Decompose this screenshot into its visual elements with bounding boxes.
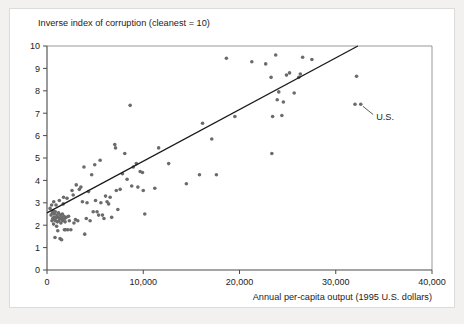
data-point <box>101 213 105 217</box>
data-point <box>66 228 70 232</box>
x-tick-label: 0 <box>44 277 49 287</box>
data-point <box>285 73 289 77</box>
data-point <box>62 195 66 199</box>
data-point <box>90 173 94 177</box>
data-point <box>71 193 75 197</box>
data-point <box>277 90 281 94</box>
data-point <box>55 225 59 229</box>
data-point <box>128 104 132 108</box>
y-tick-label: 2 <box>35 221 40 231</box>
data-point <box>130 184 134 188</box>
data-point <box>79 185 83 189</box>
data-point <box>102 217 106 221</box>
data-point <box>67 214 71 218</box>
y-tick-label: 6 <box>35 131 40 141</box>
data-point <box>94 199 98 203</box>
data-point <box>225 57 229 61</box>
data-point <box>84 217 88 221</box>
y-tick-label: 5 <box>35 153 40 163</box>
data-point <box>301 55 305 59</box>
us-annotation: U.S. <box>363 106 394 121</box>
data-point <box>93 163 97 167</box>
data-point <box>310 58 314 62</box>
data-point <box>110 216 114 220</box>
data-point <box>269 76 273 80</box>
annotation-leader-line <box>363 106 373 114</box>
data-point <box>143 212 147 216</box>
data-point <box>54 203 58 207</box>
x-tick-label: 30,000 <box>322 277 350 287</box>
data-point <box>275 98 279 102</box>
y-axis-title: Inverse index of corruption (cleanest = … <box>38 18 210 28</box>
data-point <box>53 210 57 214</box>
data-point <box>185 182 189 186</box>
data-point <box>97 213 101 217</box>
data-point <box>53 236 57 240</box>
data-point <box>215 173 219 177</box>
data-point <box>264 62 268 66</box>
data-point <box>65 197 69 201</box>
data-point <box>274 53 278 57</box>
data-point <box>58 199 62 203</box>
data-point <box>167 162 171 166</box>
data-point <box>68 219 72 223</box>
x-axis-title: Annual per-capita output (1995 U.S. doll… <box>253 292 432 302</box>
x-axis-ticks: 010,00020,00030,00040,000 <box>44 270 445 287</box>
data-point <box>85 201 89 205</box>
data-point <box>81 200 85 204</box>
data-point <box>99 201 103 205</box>
data-point <box>198 173 202 177</box>
data-point <box>359 102 363 106</box>
data-point <box>48 207 52 211</box>
data-point <box>74 183 78 187</box>
y-tick-label: 8 <box>35 86 40 96</box>
data-point <box>107 202 111 206</box>
data-point <box>50 203 54 207</box>
x-tick-label: 10,000 <box>129 277 157 287</box>
x-tick-label: 20,000 <box>226 277 254 287</box>
data-point <box>157 146 161 150</box>
data-point <box>113 143 117 147</box>
data-point <box>118 188 122 192</box>
data-point <box>141 171 145 175</box>
data-point <box>115 189 119 193</box>
data-point <box>83 232 87 236</box>
data-point <box>95 210 99 214</box>
data-point <box>353 102 357 106</box>
data-point <box>63 220 67 224</box>
data-point <box>271 115 275 119</box>
trend-line <box>47 46 358 213</box>
data-point <box>299 72 303 76</box>
data-point <box>108 195 112 199</box>
data-point <box>114 146 118 150</box>
data-point <box>52 222 56 226</box>
data-point <box>116 208 120 212</box>
data-point <box>70 189 74 193</box>
data-point <box>98 158 102 162</box>
plot-frame <box>47 46 432 270</box>
data-point <box>233 115 237 119</box>
data-point <box>52 200 56 204</box>
data-point <box>270 152 274 156</box>
axis-lines <box>47 46 432 270</box>
figure-container: Inverse index of corruption (cleanest = … <box>0 0 464 324</box>
data-point <box>136 185 140 189</box>
data-point <box>280 114 284 118</box>
data-point <box>56 229 60 233</box>
y-tick-label: 9 <box>35 64 40 74</box>
data-point <box>91 210 95 214</box>
data-point <box>76 219 80 223</box>
data-point <box>292 91 296 95</box>
data-point <box>201 121 205 125</box>
data-point <box>104 194 108 198</box>
data-point <box>82 165 86 169</box>
y-tick-label: 3 <box>35 198 40 208</box>
y-tick-label: 7 <box>35 109 40 119</box>
data-point <box>60 238 64 242</box>
data-point <box>250 60 254 64</box>
data-point <box>69 228 73 232</box>
y-tick-label: 4 <box>35 176 40 186</box>
data-point <box>88 219 92 223</box>
data-point <box>282 100 286 104</box>
y-tick-label: 0 <box>35 265 40 275</box>
